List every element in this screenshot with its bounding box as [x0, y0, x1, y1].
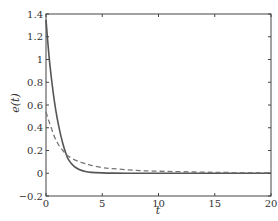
y-tick-label: 0.4	[27, 122, 43, 133]
y-tick-label: 0.6	[27, 100, 43, 111]
series-line-solid	[46, 20, 271, 174]
x-axis-label: t	[156, 204, 161, 217]
y-tick-label: 1	[37, 54, 43, 65]
ticks-layer: 05101520−0.200.20.40.60.811.21.4	[19, 9, 278, 210]
y-tick-label: 0	[37, 168, 43, 179]
plot-frame	[46, 14, 271, 196]
x-tick-label: 20	[265, 198, 278, 209]
y-tick-label: −0.2	[19, 191, 43, 202]
y-axis-label: e(t)	[9, 93, 22, 113]
series-line-dashed	[46, 112, 271, 173]
plot-border	[46, 14, 271, 196]
y-tick-label: 1.4	[27, 9, 43, 20]
series-layer	[46, 20, 271, 174]
y-tick-label: 0.2	[27, 145, 43, 156]
y-tick-label: 0.8	[27, 77, 43, 88]
x-tick-label: 15	[208, 198, 221, 209]
x-tick-label: 0	[43, 198, 49, 209]
line-chart: 05101520−0.200.20.40.60.811.21.4 t e(t)	[0, 0, 278, 221]
x-tick-label: 5	[99, 198, 105, 209]
y-tick-label: 1.2	[27, 31, 43, 42]
